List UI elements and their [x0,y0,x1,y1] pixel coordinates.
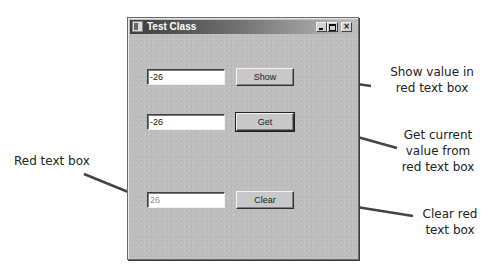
annotation-get: Get current value from red text box [383,127,493,175]
title-bar[interactable]: Test Class × [130,20,356,34]
minimize-button[interactable] [316,22,327,32]
annotation-clear-line-2: text box [404,222,496,238]
clear-button[interactable]: Clear [236,191,294,209]
annotation-show: Show value in red text box [372,64,492,96]
annotation-show-line-2: red text box [372,80,492,96]
test-class-window: Test Class × -26 Show -26 Get 26 Clear [127,17,359,260]
app-icon[interactable] [132,21,143,32]
annotation-get-line-1: Get current [383,127,493,143]
get-button[interactable]: Get [236,113,294,131]
show-button[interactable]: Show [236,68,294,86]
maximize-button[interactable] [327,22,338,32]
show-value-textbox[interactable]: -26 [147,69,225,85]
annotation-clear-line-1: Clear red [404,206,496,222]
close-button[interactable]: × [341,22,352,32]
annotation-red-text-box: Red text box [14,153,114,169]
annotation-show-line-1: Show value in [372,64,492,80]
annotation-get-line-2: value from [383,143,493,159]
red-textbox[interactable]: 26 [147,192,225,208]
annotation-clear: Clear red text box [404,206,496,238]
window-title: Test Class [147,20,196,34]
annotation-get-line-3: red text box [383,159,493,175]
get-value-textbox[interactable]: -26 [147,114,225,130]
